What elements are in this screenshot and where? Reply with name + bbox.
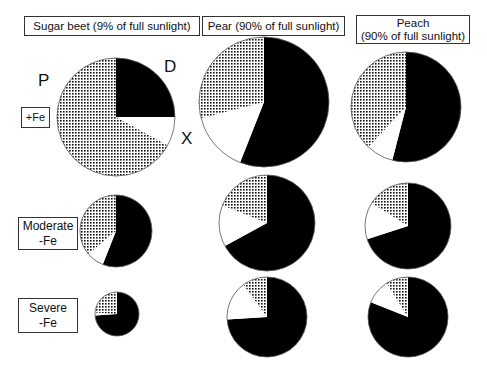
pie-chart-grid bbox=[0, 0, 487, 369]
pie-peach-fe bbox=[351, 52, 461, 162]
pie-layer bbox=[57, 37, 461, 357]
pie-peach-severe-fe bbox=[368, 277, 448, 357]
pie-sugar-beet-severe-fe bbox=[95, 292, 139, 336]
pie-sugar-beet-fe bbox=[57, 58, 175, 176]
pie-peach-moderate-fe bbox=[365, 183, 451, 269]
pie-sugar-beet-moderate-fe bbox=[80, 195, 152, 267]
pie-pear-moderate-fe bbox=[219, 175, 315, 271]
pie-segment-d bbox=[116, 58, 175, 117]
pie-pear-fe bbox=[199, 37, 329, 167]
pie-pear-severe-fe bbox=[227, 277, 307, 357]
